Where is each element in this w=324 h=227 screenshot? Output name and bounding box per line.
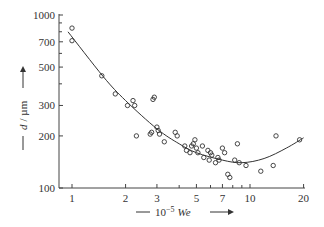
x-tick-label: 1 xyxy=(69,192,75,204)
x-tick-label: 7 xyxy=(220,192,226,204)
svg-text:10−5We: 10−5We xyxy=(155,205,191,218)
data-point xyxy=(207,158,211,162)
x-tick-label: 2 xyxy=(123,192,129,204)
data-point xyxy=(70,26,74,30)
chart: 1002003005007001000 123571020 10−5We d/ … xyxy=(0,0,324,227)
data-point xyxy=(233,158,237,162)
data-point xyxy=(162,140,166,144)
data-point xyxy=(134,134,138,138)
data-point xyxy=(125,103,129,107)
y-tick-label: 500 xyxy=(39,61,56,73)
data-point xyxy=(70,39,74,43)
y-tick-label: 200 xyxy=(39,130,56,142)
data-point xyxy=(200,144,204,148)
y-tick-label: 300 xyxy=(39,99,56,111)
data-point xyxy=(202,155,206,159)
data-point xyxy=(235,142,239,146)
x-ticks: 123571020 xyxy=(69,184,309,204)
x-tick-label: 20 xyxy=(298,192,310,204)
y-tick-label: 700 xyxy=(39,36,56,48)
data-point xyxy=(259,169,263,173)
data-point xyxy=(222,151,226,155)
data-point xyxy=(244,163,248,167)
data-point xyxy=(113,92,117,96)
data-point xyxy=(194,146,198,150)
x-tick-label: 10 xyxy=(245,192,257,204)
fit-curve xyxy=(68,32,304,163)
y-tick-label: 1000 xyxy=(33,9,56,21)
data-point xyxy=(271,163,275,167)
data-point xyxy=(175,134,179,138)
data-point xyxy=(220,146,224,150)
x-tick-label: 5 xyxy=(194,192,200,204)
data-point xyxy=(131,98,135,102)
y-tick-label: 100 xyxy=(39,182,56,194)
axes xyxy=(59,14,305,188)
svg-text:d/ µm: d/ µm xyxy=(17,100,29,130)
data-points xyxy=(70,26,302,180)
x-axis-label: 10−5We xyxy=(136,205,234,218)
x-tick-label: 3 xyxy=(154,192,160,204)
y-axis-label: d/ µm xyxy=(17,66,29,150)
data-point xyxy=(133,103,137,107)
data-point xyxy=(274,134,278,138)
data-point xyxy=(188,151,192,155)
data-point xyxy=(193,138,197,142)
